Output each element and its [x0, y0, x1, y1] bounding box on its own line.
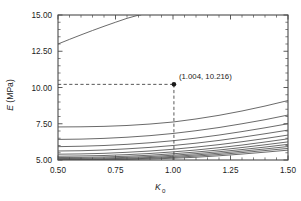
y-axis-major-ticks [58, 15, 288, 160]
x-axis-title: K 0 [155, 182, 166, 194]
y-tick-label: 7.50 [36, 120, 52, 129]
chart-canvas: 0.500.751.001.251.50 5.007.5010.0012.501… [0, 0, 301, 201]
curve-line [58, 101, 288, 127]
y-tick-label: 5.00 [36, 156, 52, 165]
y-axis-tick-labels: 5.007.5010.0012.5015.00 [32, 11, 53, 165]
figure-container: 0.500.751.001.251.50 5.007.5010.0012.501… [0, 0, 301, 201]
x-tick-label: 1.00 [165, 166, 181, 175]
y-tick-label: 12.50 [32, 47, 53, 56]
x-axis-title-base: K [155, 182, 162, 192]
y-axis-title-text: E (MPa) [5, 79, 15, 111]
annotation-guide-lines [58, 84, 174, 160]
x-tick-label: 0.75 [108, 166, 124, 175]
y-tick-label: 10.00 [32, 84, 53, 93]
x-axis-title-subscript: 0 [162, 187, 166, 194]
curve-family [58, 15, 288, 160]
y-tick-label: 15.00 [32, 11, 53, 20]
y-axis-title: E (MPa) [5, 79, 15, 111]
x-tick-label: 0.50 [50, 166, 66, 175]
x-tick-label: 1.50 [280, 166, 296, 175]
annotation-label: (1.004, 10.216) [179, 72, 232, 81]
plot-frame [58, 15, 288, 160]
x-tick-label: 1.25 [223, 166, 239, 175]
x-axis-major-ticks [58, 15, 288, 160]
annotation-point-marker [172, 82, 177, 87]
y-axis-title-unit: (MPa) [5, 79, 15, 105]
curve-line [58, 15, 141, 44]
x-axis-tick-labels: 0.500.751.001.251.50 [50, 166, 296, 175]
data-point-dot [172, 82, 177, 87]
